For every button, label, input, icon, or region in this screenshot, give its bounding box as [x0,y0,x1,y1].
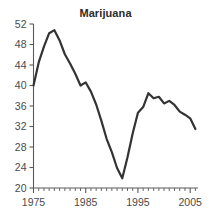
y-tick-label: 52 [15,18,27,30]
y-tick-label: 20 [15,182,27,194]
y-tick-label: 44 [15,59,27,71]
y-tick-label: 40 [15,79,27,91]
y-tick-label: 28 [15,141,27,153]
y-tick-label: 24 [15,161,27,173]
chart-figure: Marijuana 202428323640444852 19751985199… [0,0,211,222]
line-chart-plot: 202428323640444852 1975198519952005 [0,0,211,222]
data-series-line [34,30,196,178]
y-axis-tick-marks [30,24,34,188]
y-tick-label: 32 [15,120,27,132]
x-tick-label: 1975 [22,196,46,208]
x-tick-label: 2005 [178,196,202,208]
y-tick-label: 36 [15,100,27,112]
x-axis-tick-labels: 1975198519952005 [22,196,202,208]
y-axis-tick-labels: 202428323640444852 [15,18,27,194]
x-tick-label: 1995 [126,196,150,208]
y-tick-label: 48 [15,38,27,50]
x-tick-label: 1985 [74,196,98,208]
